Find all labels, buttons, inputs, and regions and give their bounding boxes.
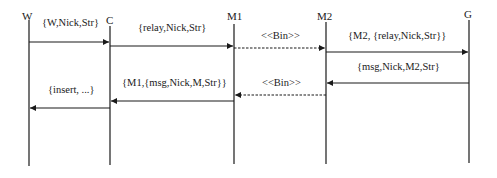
actor-label-g: G: [464, 8, 472, 20]
actor-label-c: C: [106, 14, 113, 26]
message-label: {relay,Nick,Str}: [138, 22, 206, 34]
message-arrows: [29, 42, 469, 108]
message-label: {M1,{msg,Nick,M,Str}}: [122, 77, 227, 89]
sequence-diagram: WCM1M2G{W,Nick,Str}{relay,Nick,Str}<<Bin…: [0, 0, 497, 178]
message-label: {msg,Nick,M2,Str}: [357, 61, 440, 73]
message-label: {W,Nick,Str}: [42, 17, 99, 29]
actor-label-m1: M1: [227, 10, 242, 22]
message-label: <<Bin>>: [262, 77, 301, 89]
actor-label-w: W: [22, 10, 32, 22]
message-label: {M2, {relay,Nick,Str}}: [348, 30, 446, 42]
message-label: {insert, ...}: [48, 84, 95, 96]
actor-label-m2: M2: [317, 10, 332, 22]
message-label: <<Bin>>: [261, 30, 300, 42]
